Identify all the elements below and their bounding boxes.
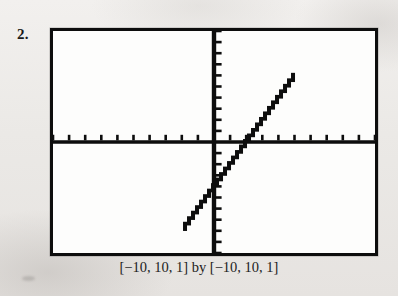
line-pixel xyxy=(263,111,267,120)
line-pixel xyxy=(247,134,251,143)
line-pixel xyxy=(215,178,219,187)
line-pixel xyxy=(183,222,187,231)
line-pixel xyxy=(279,89,283,98)
line-pixel xyxy=(251,128,255,137)
line-pixel xyxy=(239,145,243,154)
line-pixel xyxy=(211,183,215,192)
line-pixel xyxy=(267,106,271,115)
line-pixel xyxy=(287,78,291,87)
line-pixel xyxy=(223,167,227,176)
page-smudge xyxy=(22,276,35,281)
line-pixel xyxy=(207,189,211,198)
figure-container: 2. [−10, 10, 1] by [−10, 10, 1] xyxy=(0,0,398,296)
line-pixel xyxy=(235,150,239,159)
line-pixel xyxy=(255,122,259,131)
line-pixel xyxy=(219,172,223,181)
line-pixel xyxy=(243,139,247,148)
viewing-window-caption: [−10, 10, 1] by [−10, 10, 1] xyxy=(0,259,398,276)
data-line-series xyxy=(183,73,295,231)
line-pixel xyxy=(187,216,191,225)
axes-group xyxy=(53,31,375,253)
line-pixel xyxy=(199,200,203,209)
graph-plot xyxy=(53,31,375,253)
line-pixel xyxy=(283,84,287,93)
line-pixel xyxy=(191,211,195,220)
line-pixel xyxy=(195,205,199,214)
line-pixel xyxy=(203,194,207,203)
line-pixel xyxy=(275,95,279,104)
line-pixel xyxy=(259,117,263,126)
line-pixel xyxy=(231,156,235,165)
line-pixel xyxy=(291,73,295,82)
line-pixel xyxy=(227,161,231,170)
problem-number-label: 2. xyxy=(17,27,29,42)
line-pixel xyxy=(271,100,275,109)
calculator-screen xyxy=(50,28,378,256)
